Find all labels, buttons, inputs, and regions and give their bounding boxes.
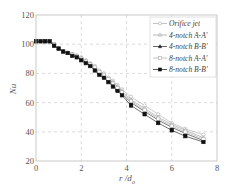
- legend-label: 8-notch A-A': [169, 54, 208, 63]
- y-tick-labels: 20406080100120: [21, 10, 34, 166]
- open-circle-marker: [159, 22, 162, 25]
- y-tick-label: 80: [26, 68, 35, 78]
- filled-square-marker: [84, 61, 87, 64]
- filled-square-marker: [98, 73, 101, 76]
- y-tick-label: 100: [21, 39, 34, 49]
- filled-square-marker: [43, 40, 46, 43]
- filled-square-marker: [52, 44, 55, 47]
- filled-square-marker: [61, 50, 64, 53]
- y-tick-label: 20: [26, 156, 35, 166]
- filled-square-marker: [184, 134, 187, 137]
- x-tick-label: 6: [170, 163, 174, 173]
- filled-square-marker: [102, 76, 105, 79]
- filled-square-marker: [156, 121, 159, 124]
- filled-square-marker: [80, 59, 83, 62]
- filled-square-marker: [111, 85, 114, 88]
- filled-square-marker: [129, 104, 132, 107]
- legend: Orifice jet4-notch A-A'4-notch B-B'8-not…: [150, 17, 216, 77]
- legend-label: 8-notch B-B': [169, 65, 208, 74]
- open-square-marker: [129, 99, 132, 102]
- filled-square-marker: [57, 47, 60, 50]
- y-tick-label: 60: [26, 98, 35, 108]
- filled-square-marker: [202, 140, 205, 143]
- y-tick-label: 120: [21, 10, 34, 20]
- filled-square-marker: [170, 129, 173, 132]
- x-tick-labels: 02468: [34, 163, 219, 173]
- filled-square-marker: [39, 40, 42, 43]
- x-tick-label: 8: [215, 163, 219, 173]
- filled-square-marker: [120, 94, 123, 97]
- y-axis-label: Nu: [8, 83, 18, 95]
- x-tick-label: 4: [124, 163, 129, 173]
- filled-square-marker: [71, 54, 74, 57]
- open-square-marker: [159, 57, 162, 60]
- open-square-marker: [156, 117, 159, 120]
- open-square-marker: [184, 130, 187, 133]
- filled-square-marker: [89, 64, 92, 67]
- x-tick-label: 2: [79, 163, 83, 173]
- filled-square-marker: [116, 89, 119, 92]
- x-axis-label: r /do: [119, 173, 135, 185]
- filled-square-marker: [107, 80, 110, 83]
- legend-label: Orifice jet: [169, 19, 201, 28]
- y-tick-label: 40: [26, 127, 35, 137]
- filled-square-marker: [48, 40, 51, 43]
- filled-square-marker: [159, 68, 162, 71]
- x-tick-label: 0: [34, 163, 38, 173]
- legend-label: 4-notch A-A': [169, 31, 208, 40]
- filled-square-marker: [143, 113, 146, 116]
- open-square-marker: [143, 108, 146, 111]
- legend-label: 4-notch B-B': [169, 42, 208, 51]
- nusselt-chart: 20406080100120 02468 Nu r /do Orifice je…: [0, 0, 226, 193]
- filled-square-marker: [93, 69, 96, 72]
- filled-square-marker: [75, 56, 78, 59]
- open-square-marker: [170, 124, 173, 127]
- filled-square-marker: [66, 51, 69, 54]
